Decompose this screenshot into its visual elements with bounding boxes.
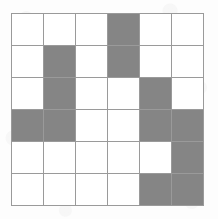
grid-cell-r5-c3: [76, 142, 107, 173]
grid-cell-r2-c4: [108, 46, 139, 77]
grid-cell-r4-c2: [44, 110, 75, 141]
grid-cell-r4-c4: [108, 110, 139, 141]
grid-cell-r6-c3: [76, 174, 107, 205]
grid-cell-r4-c5: [140, 110, 171, 141]
grid-cell-r4-c6: [172, 110, 203, 141]
grid-cell-r3-c3: [76, 78, 107, 109]
grid-cell-r5-c1: [12, 142, 43, 173]
grid-cell-r1-c1: [12, 14, 43, 45]
grid-cell-r3-c2: [44, 78, 75, 109]
grid-cell-r2-c3: [76, 46, 107, 77]
grid-cell-r3-c1: [12, 78, 43, 109]
grid-cell-r6-c6: [172, 174, 203, 205]
grid-cell-r1-c2: [44, 14, 75, 45]
grid-cell-r6-c2: [44, 174, 75, 205]
grid-cell-r6-c1: [12, 174, 43, 205]
grid-cell-r4-c1: [12, 110, 43, 141]
grid-cell-r2-c6: [172, 46, 203, 77]
grid-cell-r3-c4: [108, 78, 139, 109]
grid-cell-r2-c5: [140, 46, 171, 77]
grid-cell-r1-c5: [140, 14, 171, 45]
grid-cell-r5-c4: [108, 142, 139, 173]
grid-cell-r1-c6: [172, 14, 203, 45]
grid-cell-r6-c4: [108, 174, 139, 205]
grid-cell-r2-c1: [12, 46, 43, 77]
grid-cell-r5-c2: [44, 142, 75, 173]
grid-cell-r4-c3: [76, 110, 107, 141]
grid-cell-r3-c5: [140, 78, 171, 109]
grid-cell-r1-c4: [108, 14, 139, 45]
grid-cell-r5-c6: [172, 142, 203, 173]
grid-cell-r6-c5: [140, 174, 171, 205]
grid-cell-r2-c2: [44, 46, 75, 77]
shaded-grid-figure: [11, 13, 204, 206]
grid-cell-r3-c6: [172, 78, 203, 109]
grid-cell-r1-c3: [76, 14, 107, 45]
grid-cell-r5-c5: [140, 142, 171, 173]
